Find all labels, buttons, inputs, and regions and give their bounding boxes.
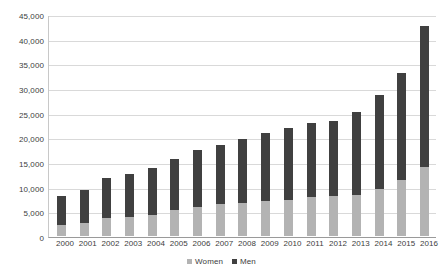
legend-swatch-icon: [232, 259, 237, 264]
bar-segment-women[interactable]: [170, 210, 179, 236]
bar-group[interactable]: [284, 16, 293, 236]
bar-segment-women[interactable]: [284, 200, 293, 237]
bar-group[interactable]: [80, 16, 89, 236]
x-axis-tick-label: 2015: [397, 239, 406, 248]
bar-segment-women[interactable]: [102, 218, 111, 236]
bar-segment-men[interactable]: [193, 150, 202, 208]
bar-group[interactable]: [420, 16, 429, 236]
bar-group[interactable]: [216, 16, 225, 236]
x-axis-tick-label: 2007: [215, 239, 224, 248]
bar-segment-men[interactable]: [397, 73, 406, 180]
y-axis-labels: 45,00040,00035,00030,00025,00020,00015,0…: [0, 0, 44, 252]
x-axis-tick-label: 2012: [329, 239, 338, 248]
y-axis-tick-label: 0: [39, 234, 44, 243]
bar-segment-men[interactable]: [284, 128, 293, 199]
x-axis-tick-label: 2008: [238, 239, 247, 248]
bar-group[interactable]: [170, 16, 179, 236]
x-axis-tick-label: 2001: [79, 239, 88, 248]
y-axis-tick-label: 35,000: [19, 61, 44, 70]
x-axis-tick-label: 2002: [101, 239, 110, 248]
bar-group[interactable]: [397, 16, 406, 236]
x-axis-labels: 2000200120022003200420052006200720082009…: [49, 239, 436, 248]
bar-segment-men[interactable]: [148, 168, 157, 215]
legend-label: Men: [240, 257, 256, 266]
bar-segment-men[interactable]: [102, 178, 111, 218]
bar-group[interactable]: [261, 16, 270, 236]
x-axis-tick-label: 2010: [283, 239, 292, 248]
bar-segment-men[interactable]: [420, 26, 429, 167]
bar-segment-men[interactable]: [57, 196, 66, 225]
bar-segment-women[interactable]: [307, 197, 316, 236]
bar-segment-men[interactable]: [216, 145, 225, 205]
y-axis-tick-label: 20,000: [19, 135, 44, 144]
bar-group[interactable]: [238, 16, 247, 236]
y-axis-tick-label: 45,000: [19, 12, 44, 21]
plot-area: [48, 16, 436, 238]
bar-segment-men[interactable]: [238, 139, 247, 203]
bar-group[interactable]: [375, 16, 384, 236]
stacked-bar-chart: 45,00040,00035,00030,00025,00020,00015,0…: [0, 0, 443, 276]
x-axis-tick-label: 2013: [352, 239, 361, 248]
x-axis-tick-label: 2016: [420, 239, 429, 248]
legend-swatch-icon: [187, 259, 192, 264]
bar-series-container: [50, 16, 436, 236]
bar-segment-women[interactable]: [397, 180, 406, 236]
bar-segment-women[interactable]: [420, 167, 429, 236]
bar-group[interactable]: [57, 16, 66, 236]
bar-segment-women[interactable]: [80, 223, 89, 236]
bar-segment-men[interactable]: [80, 190, 89, 223]
bar-segment-men[interactable]: [125, 174, 134, 217]
bar-segment-women[interactable]: [148, 215, 157, 236]
x-axis-tick-label: 2004: [147, 239, 156, 248]
y-axis-tick-label: 10,000: [19, 184, 44, 193]
bar-segment-men[interactable]: [329, 121, 338, 196]
y-axis-tick-label: 15,000: [19, 160, 44, 169]
legend-item[interactable]: Men: [232, 257, 256, 266]
bar-segment-women[interactable]: [261, 201, 270, 236]
bar-group[interactable]: [329, 16, 338, 236]
y-axis-tick-label: 25,000: [19, 110, 44, 119]
legend-item[interactable]: Women: [187, 257, 223, 266]
bar-group[interactable]: [125, 16, 134, 236]
bar-segment-men[interactable]: [261, 133, 270, 201]
bar-segment-men[interactable]: [307, 123, 316, 197]
bar-segment-women[interactable]: [216, 204, 225, 236]
x-axis-tick-label: 2003: [124, 239, 133, 248]
chart-legend: WomenMen: [0, 257, 443, 266]
bar-group[interactable]: [193, 16, 202, 236]
bar-segment-men[interactable]: [352, 112, 361, 194]
bar-group[interactable]: [352, 16, 361, 236]
y-axis-tick-label: 5,000: [23, 209, 44, 218]
x-axis-tick-label: 2006: [192, 239, 201, 248]
bar-segment-women[interactable]: [329, 196, 338, 236]
bar-group[interactable]: [102, 16, 111, 236]
bar-segment-women[interactable]: [57, 225, 66, 236]
x-axis-tick-label: 2005: [170, 239, 179, 248]
y-axis-tick-label: 40,000: [19, 36, 44, 45]
bar-segment-men[interactable]: [170, 159, 179, 210]
x-axis-tick-label: 2000: [56, 239, 65, 248]
y-axis-tick-label: 30,000: [19, 86, 44, 95]
bar-segment-men[interactable]: [375, 95, 384, 189]
bar-segment-women[interactable]: [352, 195, 361, 236]
bar-group[interactable]: [307, 16, 316, 236]
legend-label: Women: [195, 257, 223, 266]
x-axis-tick-label: 2014: [374, 239, 383, 248]
bar-group[interactable]: [148, 16, 157, 236]
x-axis-tick-label: 2009: [261, 239, 270, 248]
bar-segment-women[interactable]: [238, 203, 247, 236]
bar-segment-women[interactable]: [125, 217, 134, 236]
bar-segment-women[interactable]: [193, 207, 202, 236]
bar-segment-women[interactable]: [375, 189, 384, 236]
x-axis-tick-label: 2011: [306, 239, 315, 248]
